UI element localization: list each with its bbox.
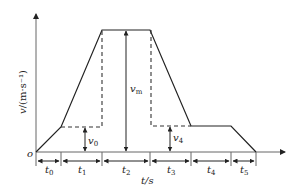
t5-label: t5 bbox=[240, 164, 249, 177]
interval-ticks bbox=[36, 152, 256, 166]
t1-label: t1 bbox=[78, 164, 87, 177]
t0-label: t0 bbox=[45, 164, 54, 177]
t4-label: t4 bbox=[207, 164, 216, 177]
v4-label: v4 bbox=[173, 132, 184, 145]
velocity-time-diagram: o v/(m·s⁻¹) t/s v0 vm v4 t0 t1 t2 t3 t4 … bbox=[0, 0, 299, 193]
t3-label: t3 bbox=[167, 164, 176, 177]
velocity-curve bbox=[36, 30, 256, 152]
y-axis-label: v/(m·s⁻¹) bbox=[17, 70, 28, 114]
vm-label: vm bbox=[130, 83, 143, 96]
t2-label: t2 bbox=[122, 164, 131, 177]
x-axis-label: t/s bbox=[141, 175, 154, 186]
origin-label: o bbox=[27, 148, 33, 159]
v0-label: v0 bbox=[88, 135, 98, 148]
